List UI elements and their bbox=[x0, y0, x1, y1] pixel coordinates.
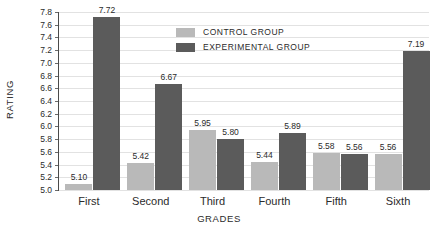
y-axis-tick-label: 5.6 bbox=[40, 147, 52, 157]
x-axis-category-label: Fifth bbox=[305, 195, 367, 207]
y-axis-tick-label: 6.2 bbox=[40, 109, 52, 119]
y-axis-tick-label: 6.0 bbox=[40, 121, 52, 131]
y-axis-tick-label: 5.4 bbox=[40, 160, 52, 170]
y-axis-tick-label: 6.4 bbox=[40, 96, 52, 106]
bar-value-label: 5.56 bbox=[346, 142, 363, 152]
legend-swatch bbox=[176, 43, 195, 52]
bar-value-label: 5.10 bbox=[71, 172, 88, 182]
bar-value-label: 7.19 bbox=[408, 39, 425, 49]
bar-group: 5.426.67Second bbox=[120, 12, 182, 190]
y-axis-tick-label: 7.0 bbox=[40, 58, 52, 68]
legend-label: EXPERIMENTAL GROUP bbox=[203, 42, 310, 52]
legend-label: CONTROL GROUP bbox=[203, 27, 284, 37]
gridline bbox=[59, 190, 429, 191]
legend-item[interactable]: CONTROL GROUP bbox=[176, 26, 310, 38]
bar[interactable]: 6.67 bbox=[155, 84, 182, 190]
y-axis-tick-label: 6.6 bbox=[40, 83, 52, 93]
bar[interactable]: 5.10 bbox=[65, 184, 92, 190]
bar-value-label: 7.72 bbox=[99, 5, 116, 15]
bar[interactable]: 5.42 bbox=[127, 163, 154, 190]
x-axis-category-label: Sixth bbox=[367, 195, 429, 207]
bar[interactable]: 5.56 bbox=[341, 154, 368, 190]
y-axis-tick-label: 5.0 bbox=[40, 185, 52, 195]
y-axis-title: RATING bbox=[4, 70, 15, 130]
legend-item[interactable]: EXPERIMENTAL GROUP bbox=[176, 41, 310, 53]
bar-value-label: 6.67 bbox=[160, 72, 177, 82]
bar-value-label: 5.56 bbox=[380, 142, 397, 152]
bar-group: 5.107.72First bbox=[58, 12, 120, 190]
bar-value-label: 5.80 bbox=[222, 127, 239, 137]
bar-chart: RATING GRADES 5.05.25.45.65.86.06.26.46.… bbox=[0, 0, 438, 237]
x-axis-category-label: Second bbox=[120, 195, 182, 207]
y-axis-tick-label: 7.2 bbox=[40, 45, 52, 55]
x-axis-category-label: Fourth bbox=[244, 195, 306, 207]
bar-value-label: 5.89 bbox=[284, 121, 301, 131]
bar[interactable]: 5.89 bbox=[279, 133, 306, 190]
bar-group: 5.567.19Sixth bbox=[367, 12, 429, 190]
bar[interactable]: 7.19 bbox=[403, 51, 430, 190]
y-axis-tick-label: 7.8 bbox=[40, 7, 52, 17]
bar[interactable]: 5.44 bbox=[251, 162, 278, 190]
legend: CONTROL GROUPEXPERIMENTAL GROUP bbox=[176, 26, 310, 56]
bar-value-label: 5.58 bbox=[318, 141, 335, 151]
bar-value-label: 5.44 bbox=[256, 150, 273, 160]
bar[interactable]: 5.95 bbox=[189, 130, 216, 190]
bar[interactable]: 5.80 bbox=[217, 139, 244, 190]
y-axis-tick-label: 7.4 bbox=[40, 32, 52, 42]
bar-value-label: 5.42 bbox=[132, 151, 149, 161]
bar-group: 5.585.56Fifth bbox=[305, 12, 367, 190]
y-axis-tick-label: 5.2 bbox=[40, 172, 52, 182]
bar[interactable]: 5.58 bbox=[313, 153, 340, 190]
x-axis-category-label: First bbox=[58, 195, 120, 207]
bar[interactable]: 7.72 bbox=[93, 17, 120, 190]
bar[interactable]: 5.56 bbox=[375, 154, 402, 190]
x-axis-category-label: Third bbox=[182, 195, 244, 207]
bar-value-label: 5.95 bbox=[194, 118, 211, 128]
y-axis-tick-label: 6.8 bbox=[40, 71, 52, 81]
y-axis-tick-label: 5.8 bbox=[40, 134, 52, 144]
y-axis-tick-label: 7.6 bbox=[40, 20, 52, 30]
tick-mark bbox=[55, 190, 58, 191]
x-axis-title: GRADES bbox=[0, 213, 438, 224]
legend-swatch bbox=[176, 28, 195, 37]
